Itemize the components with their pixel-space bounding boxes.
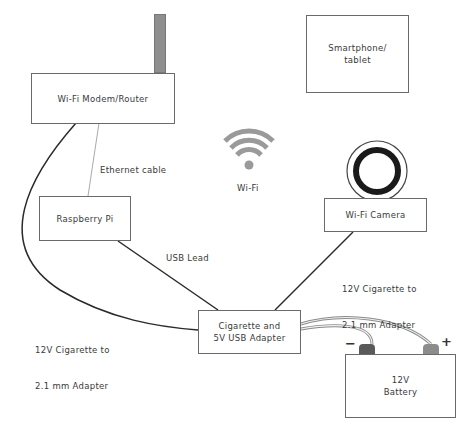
- ethernet-cable: [88, 123, 99, 196]
- smartphone-node: Smartphone/ tablet: [306, 15, 409, 93]
- battery-label-line1: 12V: [392, 374, 410, 386]
- camera-lens-ring: [356, 150, 398, 192]
- usb-lead-label: USB Lead: [166, 252, 209, 264]
- router-label: Wi-Fi Modem/Router: [58, 93, 149, 105]
- wifi-label: Wi-Fi: [237, 182, 259, 194]
- camera-adapter-label-line2: 2.1 mm Adapter: [342, 319, 417, 331]
- raspberry-pi-label: Raspberry Pi: [57, 213, 114, 225]
- battery-label-line2: Battery: [384, 386, 418, 398]
- positive-sign: +: [441, 334, 452, 349]
- router-adapter-label-line2: 2.1 mm Adapter: [35, 380, 110, 392]
- wifi-icon: [225, 131, 273, 155]
- adapter-label-line2: 5V USB Adapter: [214, 332, 286, 344]
- camera-node: Wi-Fi Camera: [324, 198, 427, 232]
- ethernet-cable-label: Ethernet cable: [100, 164, 166, 176]
- router-node: Wi-Fi Modem/Router: [31, 73, 175, 124]
- camera-adapter-label: 12V Cigarette to 2.1 mm Adapter: [342, 259, 417, 343]
- smartphone-label-line1: Smartphone/: [328, 42, 386, 54]
- battery-node: 12V Battery: [345, 354, 456, 418]
- adapter-label-line1: Cigarette and: [219, 320, 281, 332]
- router-antenna: [154, 14, 166, 73]
- smartphone-label-line2: tablet: [344, 54, 371, 66]
- camera-adapter-label-line1: 12V Cigarette to: [342, 283, 417, 295]
- cigarette-adapter-node: Cigarette and 5V USB Adapter: [198, 310, 301, 354]
- router-adapter-label-line1: 12V Cigarette to: [35, 344, 110, 356]
- raspberry-pi-node: Raspberry Pi: [39, 196, 131, 241]
- router-adapter-label: 12V Cigarette to 2.1 mm Adapter: [35, 320, 110, 404]
- wifi-dot: [245, 161, 254, 170]
- camera-label: Wi-Fi Camera: [346, 209, 406, 221]
